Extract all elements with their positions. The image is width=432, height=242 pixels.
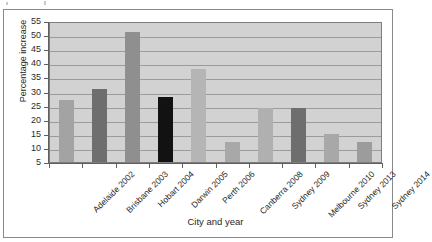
- bars-layer: [50, 23, 381, 162]
- x-axis-tick-mark: [382, 164, 383, 168]
- bar: [125, 32, 140, 162]
- y-axis-tick-label: 5: [36, 158, 41, 167]
- bar-slot: [348, 23, 381, 162]
- bar: [258, 108, 273, 162]
- x-axis-tick-mark: [315, 164, 316, 168]
- bar: [357, 142, 372, 162]
- x-axis-tick-mark: [49, 164, 50, 168]
- chart-figure: Percentage increase 55504540353025201510…: [3, 9, 393, 238]
- plot-area: [49, 22, 382, 163]
- y-axis-tick-label: 15: [31, 130, 41, 139]
- x-axis-tick-mark: [282, 164, 283, 168]
- bar: [158, 97, 173, 162]
- y-axis-tick-label: 45: [31, 45, 41, 54]
- y-axis-tick-label: 55: [31, 17, 41, 26]
- y-axis-tick-label: 40: [31, 59, 41, 68]
- bar-slot: [282, 23, 315, 162]
- bar: [59, 100, 74, 162]
- bar-slot: [182, 23, 215, 162]
- y-axis-tick-label: 50: [31, 31, 41, 40]
- bar: [324, 134, 339, 162]
- scan-artifact-speck: [6, 2, 8, 5]
- bar-slot: [149, 23, 182, 162]
- bar: [191, 69, 206, 162]
- x-axis-tick-mark: [116, 164, 117, 168]
- y-axis-tick-label: 20: [31, 116, 41, 125]
- bar-slot: [249, 23, 282, 162]
- x-axis-title: City and year: [49, 216, 382, 227]
- y-axis-tick-label: 10: [31, 144, 41, 153]
- bar: [291, 108, 306, 162]
- y-axis-tick-label: 35: [31, 73, 41, 82]
- x-axis-tick-mark: [82, 164, 83, 168]
- scan-artifact-speck: [44, 1, 46, 5]
- bar-slot: [315, 23, 348, 162]
- bar-slot: [116, 23, 149, 162]
- bar-slot: [50, 23, 83, 162]
- bar-slot: [215, 23, 248, 162]
- x-axis-tick-mark: [216, 164, 217, 168]
- x-axis-tick-mark: [182, 164, 183, 168]
- x-axis-tick-mark: [349, 164, 350, 168]
- y-axis-tick-labels: 555045403530252015105: [4, 10, 48, 175]
- y-axis-tick-label: 25: [31, 102, 41, 111]
- bar: [92, 89, 107, 162]
- x-axis-tick-mark: [149, 164, 150, 168]
- y-axis-tick-label: 30: [31, 88, 41, 97]
- bar-slot: [83, 23, 116, 162]
- bar: [225, 142, 240, 162]
